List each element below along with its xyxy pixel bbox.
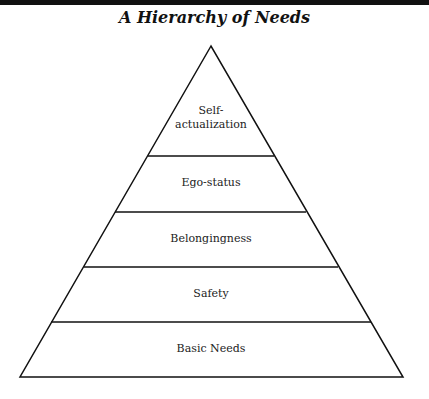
level-label-line1: Self- xyxy=(161,104,261,118)
level-self-actualization: Self- actualization xyxy=(161,104,261,132)
level-basic-needs: Basic Needs xyxy=(111,342,311,356)
level-safety: Safety xyxy=(111,287,311,301)
level-label-line2: actualization xyxy=(161,118,261,132)
pyramid xyxy=(0,0,429,399)
level-ego-status: Ego-status xyxy=(131,176,291,190)
level-belongingness: Belongingness xyxy=(111,232,311,246)
